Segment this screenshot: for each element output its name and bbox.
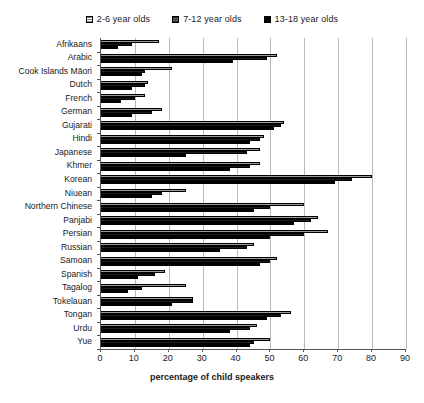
bar xyxy=(101,168,230,171)
x-axis-tick-label: 80 xyxy=(366,353,376,363)
bar-group xyxy=(101,254,406,268)
bar xyxy=(101,181,335,184)
x-axis-tick xyxy=(303,349,304,352)
bar xyxy=(101,60,233,63)
x-axis-tick-label: 0 xyxy=(97,353,102,363)
bar-group xyxy=(101,335,406,349)
bar-group xyxy=(101,106,406,120)
y-axis-tick-label: Hindi xyxy=(72,134,92,143)
y-axis-tick-label: Tokelauan xyxy=(53,297,92,306)
y-axis-labels: AfrikaansArabicCook Islands MāoriDutchFr… xyxy=(0,38,96,349)
y-axis-tick-label: Spanish xyxy=(61,270,92,279)
bar xyxy=(101,114,132,117)
bar xyxy=(101,73,142,76)
bar xyxy=(101,330,230,333)
gridline xyxy=(406,38,407,349)
x-axis-tick-label: 60 xyxy=(298,353,308,363)
x-axis-tick xyxy=(202,349,203,352)
y-axis-tick-label: Northern Chinese xyxy=(25,202,92,211)
legend-label: 13-18 year olds xyxy=(275,14,339,24)
bar-group xyxy=(101,92,406,106)
x-axis-tick-label: 20 xyxy=(163,353,173,363)
x-axis-tick-label: 30 xyxy=(197,353,207,363)
y-axis-tick-label: French xyxy=(65,94,92,103)
bar xyxy=(101,249,220,252)
bar-group xyxy=(101,160,406,174)
bar-group xyxy=(101,133,406,147)
legend-swatch-icon xyxy=(172,16,179,23)
x-axis-tick xyxy=(371,349,372,352)
y-axis-tick-label: Tagalog xyxy=(62,283,92,292)
y-axis-tick-label: Dutch xyxy=(70,80,92,89)
bar-group xyxy=(101,173,406,187)
y-axis-tick-label: Khmer xyxy=(67,161,92,170)
legend-label: 2-6 year olds xyxy=(97,14,150,24)
bar xyxy=(101,127,274,130)
y-axis-tick-label: Gujarati xyxy=(62,121,92,130)
legend-label: 7-12 year olds xyxy=(183,14,241,24)
y-axis-tick-label: Russian xyxy=(61,243,92,252)
x-axis-tick xyxy=(405,349,406,352)
plot-area xyxy=(100,38,406,350)
x-axis-tick xyxy=(269,349,270,352)
bar-group xyxy=(101,241,406,255)
legend-swatch-icon xyxy=(86,16,93,23)
bar xyxy=(101,303,172,306)
bar-groups xyxy=(101,38,406,349)
bar xyxy=(101,263,260,266)
x-axis-tick xyxy=(236,349,237,352)
x-axis-tick-labels: 0102030405060708090 xyxy=(0,353,424,367)
x-axis-tick xyxy=(168,349,169,352)
x-axis-tick xyxy=(100,349,101,352)
bar xyxy=(101,276,138,279)
bar xyxy=(101,100,121,103)
y-axis-tick-label: Cook Islands Māori xyxy=(18,67,92,76)
bar-group xyxy=(101,200,406,214)
chart-legend: 2-6 year olds7-12 year olds13-18 year ol… xyxy=(0,14,424,24)
y-axis-tick-label: German xyxy=(61,107,92,116)
bar-group xyxy=(101,214,406,228)
bar xyxy=(101,317,267,320)
bar-group xyxy=(101,146,406,160)
bar-chart: 2-6 year olds7-12 year olds13-18 year ol… xyxy=(0,0,424,403)
y-axis-tick-label: Persian xyxy=(63,229,92,238)
bar xyxy=(101,195,152,198)
bar-group xyxy=(101,38,406,52)
bar-group xyxy=(101,65,406,79)
y-axis-tick-label: Korean xyxy=(64,175,92,184)
bar-group xyxy=(101,187,406,201)
legend-swatch-icon xyxy=(264,16,271,23)
legend-item: 2-6 year olds xyxy=(86,14,150,24)
y-axis-tick-label: Panjabi xyxy=(63,216,92,225)
bar-group xyxy=(101,268,406,282)
y-axis-tick-label: Japanese xyxy=(55,148,92,157)
bar-group xyxy=(101,308,406,322)
y-axis-tick-label: Yue xyxy=(77,337,92,346)
bar-group xyxy=(101,281,406,295)
bar-group xyxy=(101,79,406,93)
y-axis-tick-label: Tongan xyxy=(64,310,92,319)
x-axis-tick-label: 40 xyxy=(231,353,241,363)
bar xyxy=(101,141,250,144)
bar xyxy=(101,236,270,239)
legend-item: 7-12 year olds xyxy=(172,14,241,24)
bar xyxy=(101,154,186,157)
x-axis-tick-label: 10 xyxy=(129,353,139,363)
y-axis-tick-label: Urdu xyxy=(73,324,92,333)
bar xyxy=(101,344,250,347)
y-axis-tick-label: Samoan xyxy=(60,256,92,265)
x-axis-title: percentage of child speakers xyxy=(0,372,424,382)
x-axis-tick-label: 90 xyxy=(400,353,410,363)
y-axis-tick-label: Arabic xyxy=(68,53,92,62)
bar xyxy=(101,87,132,90)
x-axis-tick xyxy=(337,349,338,352)
bar xyxy=(101,46,118,49)
legend-item: 13-18 year olds xyxy=(264,14,339,24)
x-axis-tick-label: 70 xyxy=(332,353,342,363)
bar-group xyxy=(101,295,406,309)
bar-group xyxy=(101,322,406,336)
bar xyxy=(101,290,128,293)
bar xyxy=(101,222,294,225)
x-axis-tick xyxy=(134,349,135,352)
y-axis-tick-label: Afrikaans xyxy=(56,40,92,49)
